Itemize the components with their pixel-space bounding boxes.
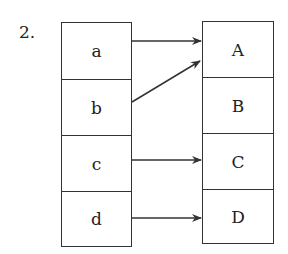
arrow-b-to-A (132, 61, 200, 102)
mapping-arrows (0, 0, 288, 254)
